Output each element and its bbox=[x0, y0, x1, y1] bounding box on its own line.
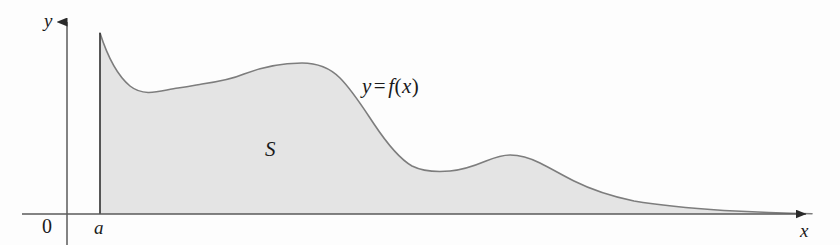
figure-canvas bbox=[0, 0, 840, 245]
curve-equation-label: y=f(x) bbox=[362, 74, 419, 99]
equation-close-paren: ) bbox=[412, 74, 420, 98]
lower-limit-label-a: a bbox=[94, 217, 104, 239]
figure-area-under-curve: y x 0 a S y=f(x) bbox=[0, 0, 840, 245]
equation-operator: = bbox=[372, 74, 388, 98]
equation-open-paren: ( bbox=[395, 74, 403, 98]
equation-lhs: y bbox=[362, 74, 372, 98]
x-axis-label: x bbox=[800, 220, 808, 242]
equation-argument: x bbox=[402, 74, 412, 98]
region-label-s: S bbox=[265, 137, 276, 162]
region-fill-s bbox=[100, 33, 812, 214]
y-axis-label: y bbox=[44, 10, 52, 32]
origin-label: 0 bbox=[42, 215, 52, 238]
